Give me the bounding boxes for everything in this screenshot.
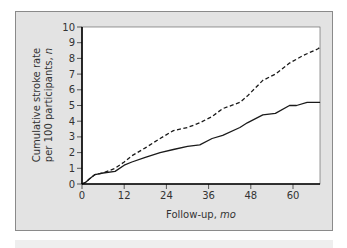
y-tick-label: 3	[69, 131, 75, 142]
y-tick-label: 0	[69, 179, 75, 190]
line-chart: 012345678910 01224364860 Follow-up, mo C…	[0, 0, 347, 248]
plot-area	[82, 27, 320, 184]
svg-text:per 100 participants, n: per 100 participants, n	[43, 48, 54, 162]
x-tick-label: 12	[118, 190, 131, 201]
y-tick-label: 9	[69, 37, 75, 48]
x-tick-label: 0	[79, 190, 85, 201]
y-tick-label: 1	[69, 163, 75, 174]
y-tick-label: 8	[69, 53, 75, 64]
y-tick-label: 6	[69, 84, 75, 95]
y-tick-label: 10	[62, 22, 75, 33]
x-axis-label: Follow-up, mo	[166, 209, 236, 220]
y-axis-label: Cumulative stroke rate per 100 participa…	[31, 48, 54, 162]
svg-text:Cumulative stroke rate: Cumulative stroke rate	[31, 48, 42, 162]
y-tick-label: 7	[69, 69, 75, 80]
x-tick-label: 36	[202, 190, 215, 201]
x-tick-label: 60	[287, 190, 300, 201]
y-tick-label: 4	[69, 116, 75, 127]
x-tick-label: 48	[244, 190, 257, 201]
y-axis-ticks: 012345678910	[62, 22, 82, 190]
y-tick-label: 5	[69, 100, 75, 111]
x-tick-label: 24	[160, 190, 173, 201]
x-axis-ticks: 01224364860	[79, 184, 300, 201]
y-tick-label: 2	[69, 147, 75, 158]
